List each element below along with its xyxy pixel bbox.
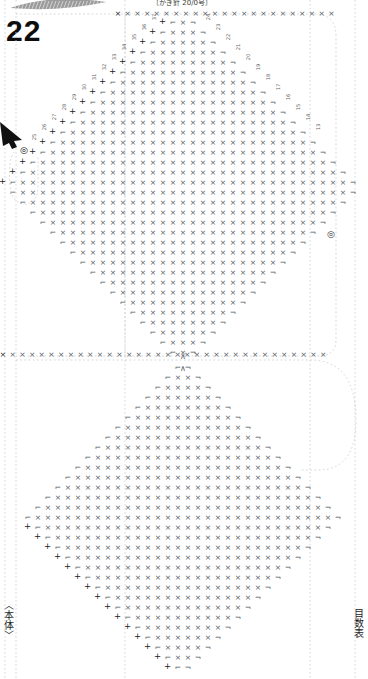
stitch-cell: ×	[75, 513, 81, 522]
stitch-cell: ×	[90, 178, 96, 187]
stitch-cell: ×	[280, 168, 286, 177]
stitch-single-crochet: ×	[145, 350, 151, 359]
stitch-cell: ×	[75, 553, 81, 562]
stitch-cell: ×	[260, 198, 266, 207]
stitch-cell: ×	[265, 483, 271, 492]
stitch-cell: ×	[225, 463, 231, 472]
stitch-chain: +	[54, 551, 61, 561]
stitch-cell: ×	[95, 463, 101, 472]
stitch-cell: ×	[65, 483, 71, 492]
stitch-cell: ×	[110, 198, 116, 207]
stitch-cell: ×	[275, 463, 281, 472]
stitch-cell: ×	[225, 553, 231, 562]
stitch-cell: ×	[155, 623, 161, 632]
stitch-cell: ×	[140, 138, 146, 147]
stitch-cell: ×	[190, 248, 196, 257]
stitch-cell: ¬	[290, 118, 296, 127]
stitch-cell: ×	[260, 268, 266, 277]
stitch-cell: ×	[250, 218, 256, 227]
stitch-cell: ×	[135, 453, 141, 462]
stitch-cell: ×	[185, 463, 191, 472]
stitch-cell: ×	[100, 228, 106, 237]
stitch-cell: ×	[215, 563, 221, 572]
stitch-cell: ×	[160, 88, 166, 97]
stitch-cell: ×	[190, 88, 196, 97]
stitch-cell: ×	[280, 148, 286, 157]
stitch-cell: ⌐	[100, 88, 106, 97]
stitch-cell: ×	[150, 88, 156, 97]
stitch-cell: ×	[150, 208, 156, 217]
stitch-cell: ×	[165, 453, 171, 462]
stitch-cell: ×	[225, 483, 231, 492]
stitch-cell: ×	[145, 593, 151, 602]
stitch-cell: ×	[270, 208, 276, 217]
stitch-cell: ×	[270, 168, 276, 177]
stitch-cell: ×	[155, 403, 161, 412]
stitch-cell: ×	[300, 148, 306, 157]
stitch-cell: ×	[290, 198, 296, 207]
stitch-single-crochet: ×	[260, 9, 266, 18]
stitch-cell: ×	[110, 208, 116, 217]
stitch-cell: ¬	[350, 188, 356, 197]
stitch-cell: ×	[100, 98, 106, 107]
stitch-cell: ×	[150, 188, 156, 197]
stitch-cell: ×	[45, 513, 51, 522]
stitch-cell: ×	[230, 238, 236, 247]
stitch-single-crochet: ×	[39, 350, 45, 359]
stitch-cell: ×	[40, 198, 46, 207]
stitch-cell: ×	[285, 533, 291, 542]
stitch-cell: ×	[225, 473, 231, 482]
stitch-cell: ×	[235, 563, 241, 572]
stitch-cell: ¬	[315, 533, 321, 542]
stitch-single-crochet: ×	[144, 9, 150, 18]
stitch-cell: ×	[150, 238, 156, 247]
stitch-cell: ×	[50, 158, 56, 167]
stitch-cell: ×	[285, 503, 291, 512]
stitch-cell: ×	[110, 118, 116, 127]
stitch-chain: +	[39, 136, 46, 146]
stitch-cell: ¬	[195, 653, 201, 662]
stitch-cell: ×	[160, 298, 166, 307]
stitch-cell: ×	[110, 168, 116, 177]
stitch-cell: ×	[135, 543, 141, 552]
stitch-cell: ×	[130, 288, 136, 297]
stitch-cell: ×	[105, 563, 111, 572]
stitch-cell: ×	[165, 493, 171, 502]
stitch-single-crochet: ×	[87, 350, 93, 359]
stitch-cell: ×	[170, 138, 176, 147]
stitch-cell: ×	[190, 178, 196, 187]
stitch-cell: ×	[155, 393, 161, 402]
stitch-cell: ×	[100, 238, 106, 247]
stitch-cell: ×	[290, 208, 296, 217]
stitch-cell: ¬	[325, 503, 331, 512]
stitch-cell: ×	[260, 148, 266, 157]
stitch-cell: ×	[280, 228, 286, 237]
stitch-cell: ×	[175, 543, 181, 552]
stitch-cell: ×	[235, 483, 241, 492]
stitch-cell: ×	[250, 268, 256, 277]
stitch-cell: ×	[200, 158, 206, 167]
stitch-cell: ×	[60, 208, 66, 217]
stitch-cell: ×	[210, 298, 216, 307]
stitch-cell: ×	[230, 168, 236, 177]
stitch-cell: ×	[195, 593, 201, 602]
stitch-cell: ×	[185, 603, 191, 612]
stitch-cell: ×	[140, 68, 146, 77]
stitch-cell: ×	[145, 443, 151, 452]
stitch-cell: ×	[180, 128, 186, 137]
stitch-cell: ×	[285, 513, 291, 522]
stitch-cell: ×	[120, 138, 126, 147]
stitch-cell: ×	[215, 453, 221, 462]
stitch-cell: ¬	[285, 463, 291, 472]
stitch-cell: ×	[100, 248, 106, 257]
stitch-cell: ×	[195, 633, 201, 642]
stitch-cell: ×	[155, 583, 161, 592]
stitch-cell: ×	[135, 563, 141, 572]
stitch-cell: ×	[180, 108, 186, 117]
stitch-cell: ×	[210, 88, 216, 97]
stitch-single-crochet: ×	[320, 350, 326, 359]
stitch-cell: ×	[300, 228, 306, 237]
stitch-cell: ×	[195, 603, 201, 612]
row-number-left: 37	[151, 14, 157, 21]
stitch-cell: ×	[165, 393, 171, 402]
